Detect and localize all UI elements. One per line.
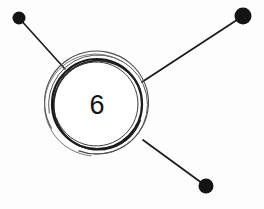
diagram-canvas: 6: [0, 0, 264, 209]
bottom-right-node[interactable]: [199, 179, 214, 194]
central-node-circle: 6: [45, 51, 149, 156]
diagram-svg: 6: [0, 0, 264, 209]
top-left-node[interactable]: [13, 12, 26, 25]
central-node-label: 6: [89, 90, 104, 120]
edge-top-right: [142, 16, 243, 82]
edge-bottom-right: [143, 140, 206, 186]
edge-top-left: [19, 18, 65, 69]
top-right-node[interactable]: [235, 8, 252, 25]
